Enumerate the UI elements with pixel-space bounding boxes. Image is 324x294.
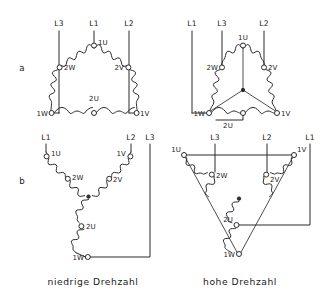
supply-label-a-low-L1: L1 [89,19,98,28]
terminal-b-high-1W [237,252,242,257]
terminal-b-low-2V [107,176,112,181]
terminal-b-low-2W [65,176,70,181]
coil-b-high-2U-1W [223,228,236,252]
terminal-label-a-high-2W: 2W [206,64,218,72]
star-point-b-low [87,195,90,198]
coil-a-low-2V-1V [130,69,139,111]
terminal-label-b-low-2V: 2V [113,176,123,184]
coil-b-low-star-2U [76,200,89,223]
diagram-a-high: L1 L3 L2 1U 2W [187,19,290,130]
terminal-label-a-low-1V: 1V [140,110,150,118]
terminal-a-low-1W [49,111,54,116]
terminal-label-a-low-2W: 2W [64,64,76,72]
diagram-b-high: L3 L2 L1 1U 2W 1V [171,133,315,259]
terminal-label-a-high-1U: 1U [238,34,248,42]
terminal-label-a-high-1V: 1V [281,110,291,118]
terminal-label-a-low-1U: 1U [98,39,108,47]
terminal-b-low-1W [85,255,90,260]
terminal-a-low-2V [126,65,131,70]
terminal-label-b-high-2W: 2W [216,172,228,180]
supply-label-b-low-L1: L1 [41,133,50,142]
supply-label-b-high-L1: L1 [305,133,314,142]
supply-lead-b-low-L3 [88,144,150,257]
coil-b-low-2W-star [70,180,85,196]
triangle-side-b-high-left [184,155,238,254]
supply-label-b-high-L2: L2 [262,133,271,142]
terminal-b-high-1U [182,153,187,158]
terminal-a-high-1U [241,43,246,48]
coil-b-high-1U-2W [186,158,207,175]
caption-low-speed: niedrige Drehzahl [48,276,139,287]
terminal-label-a-low-1W: 1W [36,110,48,118]
terminal-label-b-high-1W: 1W [223,251,235,259]
coil-b-low-2U-1W [71,229,84,252]
terminal-label-a-high-2V: 2V [268,64,278,72]
terminal-label-b-high-1V: 1V [297,146,307,154]
supply-label-b-high-L3: L3 [210,133,219,142]
terminal-a-high-2V [262,65,267,70]
terminal-a-high-2W [220,65,225,70]
coil-a-high-1U-2W [222,45,243,66]
terminal-label-b-high-2V: 2V [270,176,280,184]
terminal-b-low-2U [79,224,84,229]
terminal-a-high-1W [207,111,212,116]
supply-lead-b-high-L1 [239,144,310,225]
rail-a-high-2U [216,116,243,121]
terminal-b-low-1U [44,154,49,159]
coil-b-low-1U-2W [48,157,66,178]
terminal-label-b-high-1U: 1U [171,146,181,154]
supply-label-a-high-L2: L2 [259,19,268,28]
terminal-b-high-2V [264,172,269,177]
terminal-a-high-1V [275,111,280,116]
supply-label-a-high-L3: L3 [217,19,226,28]
row-label-b: b [19,176,24,186]
terminal-label-b-low-1U: 1U [51,150,61,158]
supply-label-b-low-L2: L2 [126,133,135,142]
supply-label-a-low-L2: L2 [124,19,133,28]
supply-label-b-low-L3: L3 [145,133,154,142]
diagram-b-low: L1 L2 L3 1U 2W 1V 2V [41,133,154,262]
terminal-b-high-2W [209,172,214,177]
figure-root: a b L3 L1 L2 [0,0,324,294]
coil-a-high-1U-2V [243,45,264,66]
star-point-a-high [241,88,244,91]
winding-diagram-canvas: a b L3 L1 L2 [0,0,324,294]
coil-a-high-2V-1V [265,69,276,110]
coil-a-high-1W-2U [211,107,242,113]
coil-a-high-2W-1W [210,69,221,110]
terminal-label-a-high-2U: 2U [223,122,233,130]
coil-a-low-1W-2U [54,107,92,113]
diagram-a-low: L3 L1 L2 1U 2W 2V [36,19,149,118]
coil-b-low-1V-2V [111,157,129,178]
terminal-b-high-2U [234,223,239,228]
terminal-label-a-high-1W: 1W [193,110,205,118]
terminal-label-b-high-2U: 2U [223,216,233,224]
coil-a-low-2W-1W [49,69,58,111]
terminal-b-low-1V [128,154,133,159]
terminal-label-b-low-2U: 2U [86,223,96,231]
coil-b-high-1V-2V [271,158,292,175]
terminal-a-low-2U [92,111,97,116]
terminal-label-a-low-2U: 2U [89,95,99,103]
supply-label-a-low-L3: L3 [54,19,63,28]
coil-b-high-2W-star [205,177,214,197]
star-point-b-high [237,197,240,200]
terminal-label-b-low-1V: 1V [117,150,127,158]
coil-b-low-2V-star [92,180,107,196]
terminal-a-low-1U [92,43,97,48]
terminal-label-b-low-1W: 1W [72,254,84,262]
row-label-a: a [19,63,24,73]
terminal-label-b-low-2W: 2W [72,174,84,182]
terminal-a-low-2W [57,65,62,70]
terminal-b-high-1V [292,153,297,158]
terminal-a-low-1V [134,111,139,116]
supply-label-a-high-L1: L1 [187,19,196,28]
terminal-a-high-2U [241,111,246,116]
caption-high-speed: hohe Drehzahl [203,276,277,287]
terminal-label-a-low-2V: 2V [115,64,125,72]
